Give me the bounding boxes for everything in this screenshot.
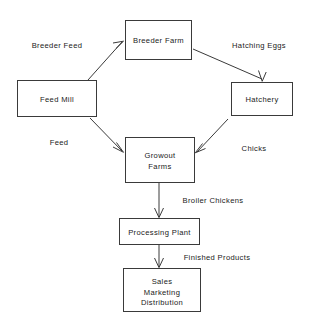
edge-label-hatching-eggs: Hatching Eggs xyxy=(232,41,286,50)
edge-processing-plant-to-sales: Finished Products xyxy=(155,244,251,268)
edge-hatchery-to-growout-farms: Chicks xyxy=(195,119,266,153)
edge-label-breeder-feed: Breeder Feed xyxy=(32,41,83,50)
arrowhead-hatching-eggs xyxy=(259,71,267,82)
edge-feed-mill-to-breeder-farm: Breeder Feed xyxy=(32,41,124,80)
node-label-sales: Sales xyxy=(152,277,173,286)
node-label-growout-farms-line1: Growout xyxy=(144,151,176,160)
node-box-growout-farms[interactable] xyxy=(126,138,195,183)
node-hatchery[interactable]: Hatchery xyxy=(232,83,293,116)
edge-feed-mill-to-growout-farms: Feed xyxy=(50,118,124,152)
node-breeder-farm[interactable]: Breeder Farm xyxy=(126,21,192,60)
node-label-marketing: Marketing xyxy=(144,288,181,297)
edge-line-chicks xyxy=(197,119,228,152)
edge-label-chicks: Chicks xyxy=(242,144,267,153)
edge-label-finished-products: Finished Products xyxy=(184,253,251,262)
flow-diagram: Breeder Feed Hatching Eggs Feed Chicks B… xyxy=(0,0,314,317)
node-label-distribution: Distribution xyxy=(141,298,183,307)
node-label-hatchery: Hatchery xyxy=(245,95,278,104)
edge-label-feed: Feed xyxy=(50,138,69,147)
diagram-canvas: Breeder Feed Hatching Eggs Feed Chicks B… xyxy=(0,0,314,317)
arrowhead-breeder-feed xyxy=(113,41,124,48)
node-label-breeder-farm: Breeder Farm xyxy=(133,36,184,45)
node-label-processing-plant: Processing Plant xyxy=(128,228,191,237)
node-label-growout-farms-line2: Farms xyxy=(148,162,171,171)
node-sales-marketing-distribution[interactable]: Sales Marketing Distribution xyxy=(124,269,201,312)
node-growout-farms[interactable]: Growout Farms xyxy=(126,138,195,183)
edge-growout-farms-to-processing-plant: Broiler Chickens xyxy=(155,182,244,218)
node-feed-mill[interactable]: Feed Mill xyxy=(18,81,97,117)
node-processing-plant[interactable]: Processing Plant xyxy=(120,219,200,245)
node-label-feed-mill: Feed Mill xyxy=(40,95,74,104)
edge-breeder-farm-to-hatchery: Hatching Eggs xyxy=(193,41,286,81)
edge-line-hatching-eggs xyxy=(193,49,262,79)
edge-line-feed xyxy=(90,118,122,151)
edge-label-broiler-chickens: Broiler Chickens xyxy=(183,196,244,205)
